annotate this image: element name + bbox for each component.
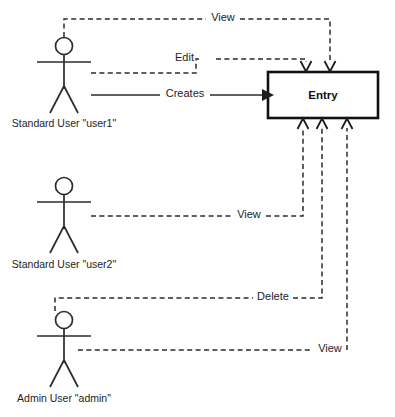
actor-admin-leg-right [64, 360, 78, 387]
entity-entry-label: Entry [308, 89, 338, 101]
relation-admin-delete-label: Delete [257, 290, 289, 302]
actor-admin-label: Admin User "admin" [17, 392, 111, 404]
actor-admin-head-icon [56, 312, 73, 329]
actor-user1-label: Standard User "user1" [12, 117, 117, 129]
relation-user2-view[interactable]: View [91, 119, 309, 220]
actor-user2-head-icon [56, 178, 73, 195]
actor-user1-leg-right [64, 86, 78, 113]
relation-user1-view[interactable]: View [64, 11, 336, 72]
actor-user1-head-icon [56, 38, 73, 55]
relation-user1-edit-arrowhead [301, 61, 312, 72]
relation-user1-creates-label: Creates [166, 87, 205, 99]
actor-admin-leg-left [50, 360, 64, 387]
relation-admin-delete-path-left [55, 298, 253, 311]
relation-user2-view-label: View [237, 208, 261, 220]
relation-user1-edit[interactable]: Edit [91, 51, 312, 73]
relation-user1-edit-path-right [216, 59, 306, 62]
actor-user1[interactable]: Standard User "user1" [12, 38, 117, 129]
actor-admin[interactable]: Admin User "admin" [17, 312, 111, 404]
relation-admin-view-label: View [318, 342, 342, 354]
actor-user2[interactable]: Standard User "user2" [12, 178, 117, 270]
entity-entry[interactable]: Entry [268, 72, 378, 118]
relation-user1-creates[interactable]: Creates [91, 87, 274, 101]
relation-admin-delete[interactable]: Delete [55, 119, 328, 312]
actor-user2-leg-right [64, 226, 78, 253]
use-case-diagram: Entry Standard User "user1" Standard Use… [0, 0, 395, 417]
actor-user2-leg-left [50, 226, 64, 253]
diagram-canvas: Entry Standard User "user1" Standard Use… [0, 0, 395, 417]
relation-user2-view-path-right [266, 128, 303, 216]
relation-user1-view-path-left [64, 19, 206, 37]
relation-admin-view[interactable]: View [78, 119, 353, 354]
relation-user1-edit-label: Edit [175, 51, 194, 63]
actor-user2-label: Standard User "user2" [12, 258, 117, 270]
relation-user1-view-label: View [211, 11, 235, 23]
relation-admin-view-arrowhead [342, 119, 353, 130]
actor-user1-leg-left [50, 86, 64, 113]
relation-admin-delete-path-right [293, 128, 322, 298]
relation-admin-delete-arrowhead [317, 119, 328, 130]
relation-user1-view-path-right [240, 19, 330, 62]
relation-user2-view-arrowhead [298, 119, 309, 130]
relation-user1-view-arrowhead [325, 61, 336, 72]
